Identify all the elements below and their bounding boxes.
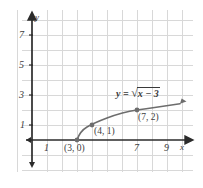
equation-prefix: y =: [116, 88, 131, 99]
x-tick-label-7: 7: [134, 143, 139, 153]
y-tick-label-7: 7: [19, 30, 24, 40]
point-label-3-0: (3, 0): [64, 144, 85, 154]
equation-annotation: y = √x − 3: [116, 87, 160, 99]
y-tick-label-3: 3: [19, 90, 24, 100]
y-tick-label-5: 5: [19, 60, 24, 70]
point-label-4-1: (4, 1): [94, 127, 115, 137]
x-tick-label-9: 9: [164, 143, 169, 153]
y-tick-label-1: 1: [20, 120, 25, 130]
y-axis-label: y: [35, 13, 39, 22]
coordinate-plane: [0, 0, 203, 188]
point-label-7-2: (7, 2): [138, 113, 159, 123]
x-axis-label: x: [180, 143, 184, 152]
graph-figure: 7 5 3 1 1 7 9 y x (3, 0) (4, 1) (7, 2) y…: [0, 0, 203, 188]
x-tick-label-1: 1: [44, 143, 49, 153]
equation-radicand: x − 3: [137, 87, 160, 99]
data-point-3-0: [75, 138, 80, 143]
